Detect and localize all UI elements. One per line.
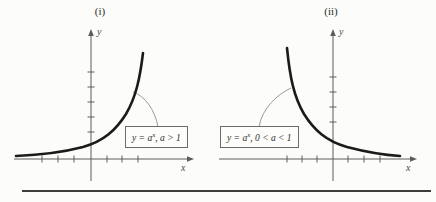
panel-i-equation-box: y = ax, a > 1 xyxy=(125,126,188,148)
panel-i-y-axis-arrow xyxy=(88,29,94,36)
panel-i-x-axis-label: x xyxy=(181,162,185,173)
panel-ii-title: (ii) xyxy=(316,5,346,17)
panel-i-equation-post: , a > 1 xyxy=(155,133,180,143)
panel-i-title: (i) xyxy=(88,5,112,17)
panel-ii-x-axis-label: x xyxy=(406,162,410,173)
exponential-graphs-figure: (i) (ii) y x y x y = ax, a > 1 y = ax, 0… xyxy=(0,0,436,202)
panel-i-leader-line xyxy=(133,92,158,127)
panel-ii-equation-box: y = ax, 0 < a < 1 xyxy=(220,126,299,148)
panel-ii-y-axis-arrow xyxy=(330,29,336,36)
graph-canvas xyxy=(0,0,436,202)
panel-ii-y-axis-label: y xyxy=(339,26,343,37)
panel-i-equation-pre: y = a xyxy=(132,133,152,143)
panel-ii-leader-line xyxy=(259,88,291,127)
panel-ii-exponential-curve xyxy=(287,48,400,156)
panel-ii-x-axis-arrow xyxy=(410,156,417,162)
panel-ii-equation-post: , 0 < a < 1 xyxy=(250,133,291,143)
panel-i-x-axis-arrow xyxy=(187,156,194,162)
panel-i-exponential-curve xyxy=(16,53,143,156)
panel-i-y-axis-label: y xyxy=(97,26,101,37)
panel-ii-equation-pre: y = a xyxy=(227,133,247,143)
